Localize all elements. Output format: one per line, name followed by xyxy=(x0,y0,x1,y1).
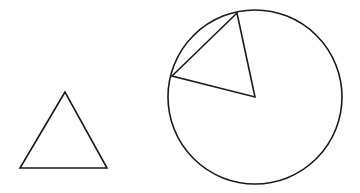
sector-triangle xyxy=(172,13,255,97)
equilateral-triangle xyxy=(20,92,107,168)
diagram-canvas xyxy=(0,0,360,193)
